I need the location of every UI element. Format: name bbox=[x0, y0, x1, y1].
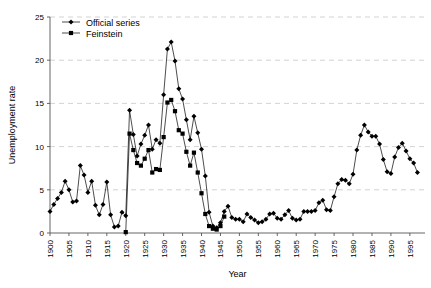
data-point bbox=[298, 217, 303, 222]
data-point bbox=[211, 227, 215, 231]
data-point bbox=[241, 219, 246, 224]
data-point bbox=[237, 217, 242, 222]
x-axis-title: Year bbox=[228, 269, 246, 279]
data-point bbox=[82, 173, 87, 178]
data-point bbox=[324, 207, 329, 212]
data-point bbox=[112, 224, 117, 229]
data-point bbox=[93, 203, 98, 208]
data-point bbox=[180, 132, 184, 136]
y-axis-title: Unemployment rate bbox=[7, 86, 17, 165]
data-point bbox=[309, 209, 314, 214]
data-point bbox=[143, 157, 147, 161]
data-point bbox=[196, 170, 200, 174]
data-point bbox=[275, 216, 280, 221]
x-tick-label-1930: 1930 bbox=[160, 239, 169, 257]
x-tick-label-1935: 1935 bbox=[179, 239, 188, 257]
data-point bbox=[377, 142, 382, 147]
chart-canvas: 0510152025190019051910191519201925193019… bbox=[0, 0, 431, 288]
data-point bbox=[154, 167, 158, 171]
data-point bbox=[203, 212, 207, 216]
y-tick-label-10: 10 bbox=[35, 143, 44, 152]
x-tick-label-1990: 1990 bbox=[387, 239, 396, 257]
data-point bbox=[55, 196, 60, 201]
x-tick-label-1905: 1905 bbox=[65, 239, 74, 257]
data-point bbox=[180, 97, 185, 102]
data-point bbox=[142, 133, 147, 138]
data-point bbox=[169, 40, 174, 45]
x-tick-label-1970: 1970 bbox=[311, 239, 320, 257]
data-point bbox=[116, 224, 121, 229]
y-tick-label-15: 15 bbox=[35, 99, 44, 108]
y-tick-label-25: 25 bbox=[35, 13, 44, 22]
data-point bbox=[146, 123, 151, 128]
data-point bbox=[222, 209, 227, 214]
data-point bbox=[373, 134, 378, 139]
x-tick-label-1945: 1945 bbox=[216, 239, 225, 257]
x-tick-label-1980: 1980 bbox=[349, 239, 358, 257]
x-tick-label-1920: 1920 bbox=[122, 239, 131, 257]
data-point bbox=[66, 187, 71, 192]
data-point bbox=[328, 208, 333, 213]
unemployment-rate-chart: 0510152025190019051910191519201925193019… bbox=[0, 0, 431, 288]
data-point bbox=[177, 128, 181, 132]
data-point bbox=[48, 209, 53, 214]
data-point bbox=[267, 211, 272, 216]
x-tick-label-1965: 1965 bbox=[292, 239, 301, 257]
y-tick-label-0: 0 bbox=[40, 229, 45, 238]
data-point bbox=[59, 190, 64, 195]
legend-label-1: Feinstein bbox=[86, 29, 123, 39]
data-point bbox=[139, 164, 143, 168]
x-tick-label-1955: 1955 bbox=[254, 239, 263, 257]
y-tick-label-20: 20 bbox=[35, 56, 44, 65]
data-point bbox=[74, 199, 79, 204]
data-point bbox=[404, 148, 409, 153]
data-point bbox=[184, 117, 189, 122]
data-point bbox=[89, 179, 94, 184]
data-point bbox=[252, 218, 257, 223]
data-point bbox=[51, 202, 56, 207]
data-point bbox=[215, 227, 219, 231]
data-point bbox=[195, 130, 200, 135]
y-tick-label-5: 5 bbox=[40, 186, 45, 195]
x-tick-label-1910: 1910 bbox=[84, 239, 93, 257]
data-point bbox=[218, 224, 222, 228]
data-point bbox=[351, 172, 356, 177]
data-point bbox=[162, 135, 166, 139]
data-point bbox=[101, 202, 106, 207]
data-point bbox=[161, 92, 166, 97]
data-point bbox=[165, 100, 169, 104]
data-point bbox=[124, 230, 128, 234]
data-point bbox=[138, 142, 143, 147]
legend-marker-1 bbox=[69, 31, 73, 35]
x-tick-label-1915: 1915 bbox=[103, 239, 112, 257]
data-point bbox=[203, 173, 208, 178]
data-point bbox=[176, 86, 181, 91]
data-point bbox=[184, 150, 188, 154]
data-point bbox=[146, 148, 150, 152]
data-point bbox=[354, 148, 359, 153]
x-tick-label-1995: 1995 bbox=[406, 239, 415, 257]
x-tick-label-1900: 1900 bbox=[46, 239, 55, 257]
data-point bbox=[222, 214, 226, 218]
data-point bbox=[226, 204, 231, 209]
data-point bbox=[135, 161, 139, 165]
data-point bbox=[260, 219, 265, 224]
x-tick-label-1950: 1950 bbox=[235, 239, 244, 257]
data-point bbox=[199, 191, 203, 195]
data-point bbox=[332, 194, 337, 199]
data-point bbox=[173, 59, 178, 64]
data-point bbox=[131, 148, 135, 152]
legend-label-0: Official series bbox=[86, 18, 140, 28]
data-point bbox=[188, 137, 193, 142]
data-point bbox=[358, 133, 363, 138]
data-point bbox=[392, 154, 397, 159]
data-point bbox=[256, 220, 261, 225]
data-point bbox=[127, 108, 132, 113]
data-point bbox=[173, 109, 177, 113]
x-tick-label-1960: 1960 bbox=[273, 239, 282, 257]
data-point bbox=[191, 114, 196, 119]
data-point bbox=[169, 98, 173, 102]
data-point bbox=[158, 168, 162, 172]
x-tick-label-1925: 1925 bbox=[141, 239, 150, 257]
data-point bbox=[104, 180, 109, 185]
